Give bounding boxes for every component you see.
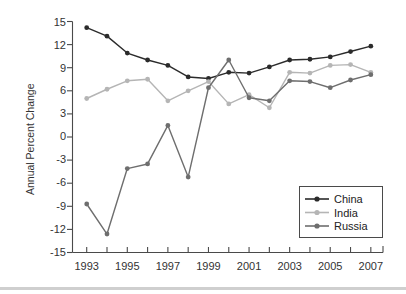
- data-point: [165, 123, 170, 128]
- y-tick-labels: 15 12 9 6 3 0 -3 -6 -9 -12 -15: [50, 16, 66, 258]
- data-point: [368, 72, 373, 77]
- legend-label: India: [334, 207, 359, 219]
- data-point: [348, 49, 353, 54]
- x-tick-label: 2003: [277, 260, 301, 272]
- data-point: [105, 34, 110, 39]
- data-point: [186, 75, 191, 80]
- y-tick-label: 12: [54, 39, 66, 51]
- data-point: [247, 71, 252, 76]
- y-tick-label: 6: [60, 84, 66, 96]
- data-point: [145, 77, 150, 82]
- data-point: [348, 62, 353, 67]
- data-point: [105, 232, 110, 237]
- data-point: [308, 57, 313, 62]
- x-tick-label: 1995: [115, 260, 139, 272]
- legend-swatch-marker: [314, 196, 319, 201]
- legend-swatch-marker: [314, 223, 319, 228]
- y-tick-label: -6: [56, 176, 66, 188]
- data-point: [165, 63, 170, 68]
- x-tick-labels: 19931995199719992001200320052007: [74, 260, 383, 272]
- data-point: [206, 79, 211, 84]
- data-point: [125, 78, 130, 83]
- data-point: [328, 63, 333, 68]
- y-axis-title: Annual Percent Change: [24, 83, 36, 195]
- x-axis: [73, 246, 384, 253]
- data-point: [125, 166, 130, 171]
- data-point: [186, 175, 191, 180]
- y-tick-label: -3: [56, 153, 66, 165]
- y-tick-label: -9: [56, 200, 66, 212]
- data-point: [226, 58, 231, 63]
- x-tick-label: 2001: [237, 260, 261, 272]
- data-point: [328, 55, 333, 60]
- y-tick-label: 3: [60, 107, 66, 119]
- data-point: [84, 25, 89, 30]
- data-point: [125, 51, 130, 56]
- y-tick-label: -12: [50, 223, 66, 235]
- data-point: [226, 101, 231, 106]
- data-point: [308, 79, 313, 84]
- data-point: [348, 78, 353, 83]
- data-point: [105, 87, 110, 92]
- series-china: [84, 25, 373, 81]
- data-point: [308, 71, 313, 76]
- x-tick-label: 1993: [74, 260, 98, 272]
- data-point: [287, 70, 292, 75]
- y-tick-label: 0: [60, 130, 66, 142]
- x-tick-label: 1997: [156, 260, 180, 272]
- data-point: [145, 58, 150, 63]
- x-tick-label: 2005: [318, 260, 342, 272]
- chart-figure: Annual Percent Change 15 12 9 6 3 0 -3 -…: [0, 0, 406, 294]
- line-chart: Annual Percent Change 15 12 9 6 3 0 -3 -…: [0, 0, 406, 294]
- data-point: [206, 85, 211, 90]
- data-point: [267, 98, 272, 103]
- x-tick-label: 2007: [359, 260, 383, 272]
- chart-legend[interactable]: China India Russia: [300, 187, 383, 238]
- legend-swatch-marker: [314, 210, 319, 215]
- footer-divider: [0, 287, 406, 290]
- y-axis-title-text: Annual Percent Change: [24, 83, 36, 195]
- legend-label: Russia: [334, 220, 369, 232]
- data-point: [145, 162, 150, 167]
- data-point: [226, 70, 231, 75]
- y-tick-label: 9: [60, 62, 66, 74]
- data-point: [267, 105, 272, 110]
- data-point: [186, 88, 191, 93]
- data-point: [165, 98, 170, 103]
- data-point: [287, 58, 292, 63]
- data-point: [84, 202, 89, 207]
- data-point: [247, 95, 252, 100]
- y-tick-label: -15: [50, 246, 66, 258]
- data-point: [368, 44, 373, 49]
- data-point: [267, 65, 272, 70]
- legend-label: China: [334, 193, 364, 205]
- data-point: [287, 78, 292, 83]
- y-axis: [67, 22, 73, 253]
- data-point: [328, 85, 333, 90]
- y-tick-label: 15: [54, 16, 66, 28]
- x-tick-marks: [87, 247, 371, 253]
- data-point: [84, 96, 89, 101]
- x-tick-label: 1999: [196, 260, 220, 272]
